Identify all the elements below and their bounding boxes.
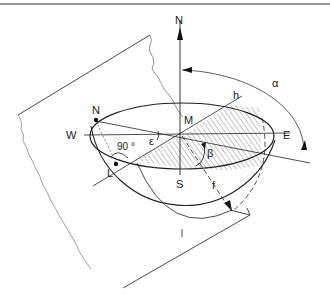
epsilon-label: ε	[149, 135, 154, 147]
north-axis-label: N	[175, 14, 183, 26]
north-point-label: N	[92, 104, 100, 116]
l-point-dot	[114, 162, 118, 166]
north-arrowhead	[177, 27, 183, 40]
alpha-label: α	[272, 77, 279, 89]
l-label: L	[107, 167, 113, 179]
right-angle-label: 90 °	[117, 141, 135, 152]
south-label: S	[176, 178, 183, 190]
f-arrowhead	[224, 200, 232, 211]
east-label: E	[283, 129, 290, 141]
alpha-arrowhead-left	[182, 67, 192, 73]
north-point-dot	[94, 118, 98, 122]
epsilon-arc	[157, 131, 159, 140]
diagram-canvas: N N W E S M α ε β h f L 90 °	[0, 0, 330, 301]
alpha-arrowhead-right	[301, 140, 307, 150]
f-label: f	[212, 179, 216, 191]
beta-label: β	[207, 147, 213, 159]
h-label: h	[233, 89, 239, 101]
n-l-dashed	[96, 121, 116, 163]
center-label: M	[184, 114, 193, 126]
west-label: W	[66, 129, 77, 141]
